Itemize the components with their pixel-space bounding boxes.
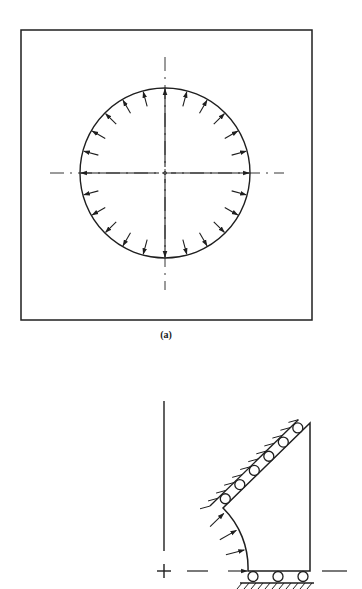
pressure-arrow-icon [92,208,105,216]
pressure-arrow-icon [123,100,131,113]
plate-outline [21,30,312,320]
diagonal-support-line [210,420,298,506]
figure-b-quarter-model [157,401,347,589]
pressure-arrow-icon [84,151,98,155]
arc-pressure-arrow-icon [226,550,244,555]
pressure-arrow-icon [183,240,187,254]
ground-hatch [286,583,291,589]
figure-canvas [0,0,362,589]
pressure-arrow-icon [232,191,246,195]
pressure-arrow-icon [106,222,117,233]
pressure-arrow-icon [143,240,147,254]
roller-support-icon [273,572,283,582]
ground-hatch [300,583,305,589]
ground-hatch [293,583,298,589]
ground-hatch [251,583,256,589]
ground-hatch [244,583,249,589]
figure-a-caption: (a) [160,329,172,340]
pressure-arrow-icon [214,114,225,125]
arc-pressure-arrow-icon [220,530,237,539]
pressure-arrow-icon [92,131,105,139]
pressure-arrow-icon [214,222,225,233]
pressure-arrow-icon [183,92,187,106]
ground-hatch [265,583,270,589]
ground-hatch [279,583,284,589]
pressure-arrow-icon [232,151,246,155]
ground-hatch [258,583,263,589]
pressure-arrow-icon [225,131,238,139]
figure-a-plate-with-hole [21,30,312,320]
pressure-arrow-icon [143,92,147,106]
pressure-arrow-icon [84,191,98,195]
pressure-arrow-icon [106,114,117,125]
ground-hatch [307,583,312,589]
pressure-arrow-icon [225,208,238,216]
pressure-arrow-icon [123,233,131,246]
ground-hatch [272,583,277,589]
roller-support-icon [248,572,258,582]
pressure-arrow-icon [200,233,208,246]
ground-hatch [237,583,242,589]
roller-support-icon [298,572,308,582]
pressure-arrow-icon [200,100,208,113]
arc-pressure-arrow-icon [210,513,224,526]
support-hatch [200,506,210,509]
